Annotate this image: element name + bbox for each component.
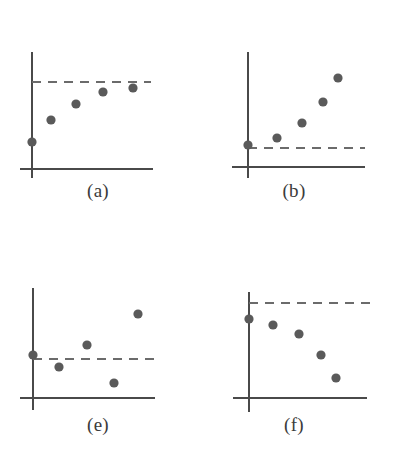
data-point bbox=[244, 314, 253, 323]
data-point bbox=[316, 350, 325, 359]
panel-f: (f) bbox=[196, 234, 392, 468]
data-point bbox=[318, 97, 327, 106]
data-point bbox=[82, 340, 91, 349]
data-point bbox=[54, 362, 63, 371]
panel-e: (e) bbox=[0, 234, 196, 468]
data-point bbox=[133, 309, 142, 318]
data-point bbox=[294, 329, 303, 338]
data-point bbox=[109, 378, 118, 387]
panel-e-plot bbox=[0, 234, 196, 430]
panel-e-label: (e) bbox=[0, 414, 196, 436]
data-point bbox=[333, 73, 342, 82]
data-point bbox=[27, 137, 36, 146]
data-point bbox=[98, 87, 107, 96]
panel-a-label: (a) bbox=[0, 180, 196, 202]
data-point bbox=[272, 133, 281, 142]
data-point bbox=[243, 140, 252, 149]
panel-b-label: (b) bbox=[196, 180, 392, 202]
data-point bbox=[71, 99, 80, 108]
figure-scatter-panel-grid: (a) (b) (e) bbox=[0, 0, 393, 468]
panel-a-plot bbox=[0, 0, 196, 196]
panel-b-plot bbox=[196, 0, 392, 196]
panel-f-label: (f) bbox=[196, 414, 392, 436]
data-point bbox=[268, 320, 277, 329]
data-point bbox=[28, 350, 37, 359]
data-point bbox=[331, 373, 340, 382]
panel-b: (b) bbox=[196, 0, 392, 234]
panel-a: (a) bbox=[0, 0, 196, 234]
panel-f-plot bbox=[196, 234, 392, 430]
data-point bbox=[46, 115, 55, 124]
data-point bbox=[297, 118, 306, 127]
data-point bbox=[128, 83, 137, 92]
